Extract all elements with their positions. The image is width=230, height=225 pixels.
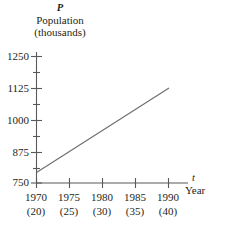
x-axis-label: t Year <box>185 172 230 197</box>
y-tick-label-750: 750 <box>0 177 29 188</box>
y-tick-label-1125: 1125 <box>0 83 29 94</box>
x-tick-label-1990: 1990 <box>148 190 188 204</box>
x-axis-symbol: t <box>185 172 230 184</box>
y-tick-label-1250: 1250 <box>0 51 29 62</box>
x-axis-name: Year <box>185 184 230 197</box>
y-tick-label-875: 875 <box>0 147 29 158</box>
y-tick-label-1000: 1000 <box>0 115 29 126</box>
x-tick-alt-label-40: (40) <box>148 204 188 218</box>
population-trend-line <box>37 88 170 173</box>
population-line-chart: P Population (thousands) 1250 1125 1000 … <box>0 0 230 225</box>
x-tick-group-1990: 1990 (40) <box>148 190 188 218</box>
